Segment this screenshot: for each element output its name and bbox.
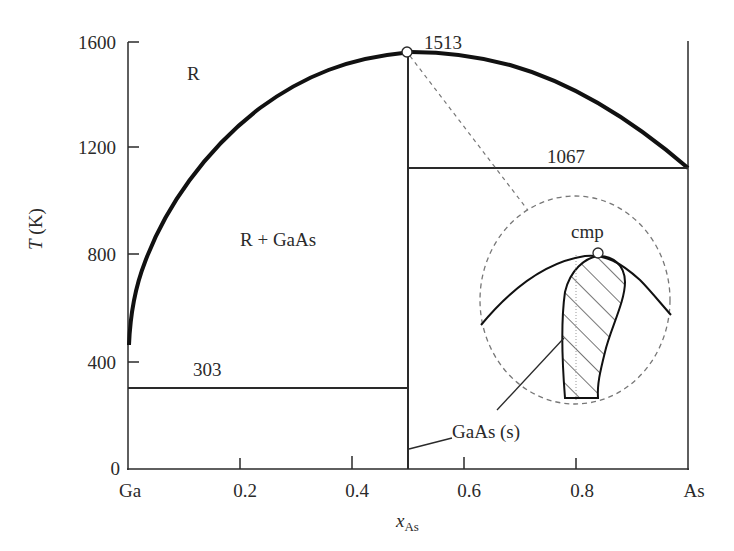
region-label-liquid: R	[187, 64, 200, 83]
y-tick-label-1600: 1600	[56, 33, 116, 52]
x-axis-sub: As	[404, 519, 418, 534]
y-tick-label-0: 0	[60, 459, 120, 478]
x-tick-label-0.2: 0.2	[215, 481, 275, 500]
y-axis-title: T (K)	[26, 208, 45, 250]
melting-point-marker	[402, 47, 412, 57]
y-axis-unit: (K)	[25, 208, 46, 234]
label-cmp: cmp	[571, 222, 604, 241]
y-tick-label-800: 800	[56, 245, 116, 264]
label-invariant-1067: 1067	[547, 147, 585, 166]
inset-cmp-marker	[593, 248, 603, 258]
label-invariant-303: 303	[193, 360, 222, 379]
x-tick-label-ga: Ga	[100, 481, 160, 500]
y-tick-label-1200: 1200	[56, 138, 116, 157]
label-melting-point: 1513	[424, 33, 462, 52]
label-gaas-solid: GaAs (s)	[452, 422, 520, 441]
inset-connector	[410, 56, 530, 213]
x-tick-label-0.8: 0.8	[552, 481, 612, 500]
x-tick-label-as: As	[664, 481, 724, 500]
x-tick-label-0.6: 0.6	[439, 481, 499, 500]
x-tick-label-0.4: 0.4	[327, 481, 387, 500]
y-tick-label-400: 400	[56, 353, 116, 372]
gaas-leader-to-line	[409, 438, 452, 449]
region-label-two-phase: R + GaAs	[240, 230, 316, 249]
y-axis-var: T	[25, 239, 46, 250]
x-axis-title: xAs	[396, 511, 419, 530]
liquidus-ga-side	[129, 53, 403, 345]
